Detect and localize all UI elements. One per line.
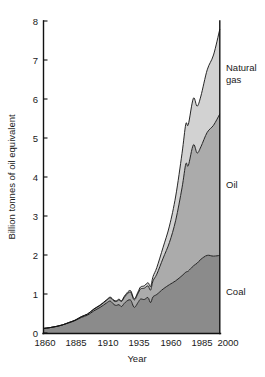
y-tick-label-8: 8	[33, 16, 38, 27]
x-tick-label-1985: 1985	[191, 337, 212, 348]
series-label-natural-gas-line1: Natural	[226, 62, 257, 73]
y-tick-label-3: 3	[33, 211, 38, 222]
x-tick-label-1860: 1860	[34, 337, 55, 348]
y-tick-label-5: 5	[33, 133, 38, 144]
y-axis-title: Billion tonnes of oil equivalent	[6, 114, 17, 240]
series-labels: Natural gas Oil Coal	[226, 62, 257, 297]
x-tick-label-2000: 2000	[217, 337, 238, 348]
y-tick-label-6: 6	[33, 94, 38, 105]
x-tick-label-1960: 1960	[160, 337, 181, 348]
y-tick-label-7: 7	[33, 55, 38, 66]
y-axis-tick-labels: 0 1 2 3 4 5 6 7 8	[33, 16, 38, 339]
series-label-natural-gas-line2: gas	[226, 74, 242, 85]
series-label-oil: Oil	[226, 179, 238, 190]
chart-figure: 0 1 2 3 4 5 6 7 8 1860 1885 1910 1935 19…	[0, 0, 265, 377]
y-tick-label-1: 1	[33, 289, 38, 300]
series-label-coal: Coal	[226, 286, 246, 297]
x-axis-tick-labels: 1860 1885 1910 1935 1960 1985 2000	[34, 337, 238, 348]
x-axis-title: Year	[127, 353, 146, 364]
x-tick-label-1935: 1935	[128, 337, 149, 348]
stacked-area-chart: 0 1 2 3 4 5 6 7 8 1860 1885 1910 1935 19…	[0, 0, 265, 377]
x-tick-label-1885: 1885	[65, 337, 86, 348]
y-tick-label-2: 2	[33, 250, 38, 261]
x-tick-label-1910: 1910	[97, 337, 118, 348]
y-tick-label-4: 4	[33, 172, 38, 183]
